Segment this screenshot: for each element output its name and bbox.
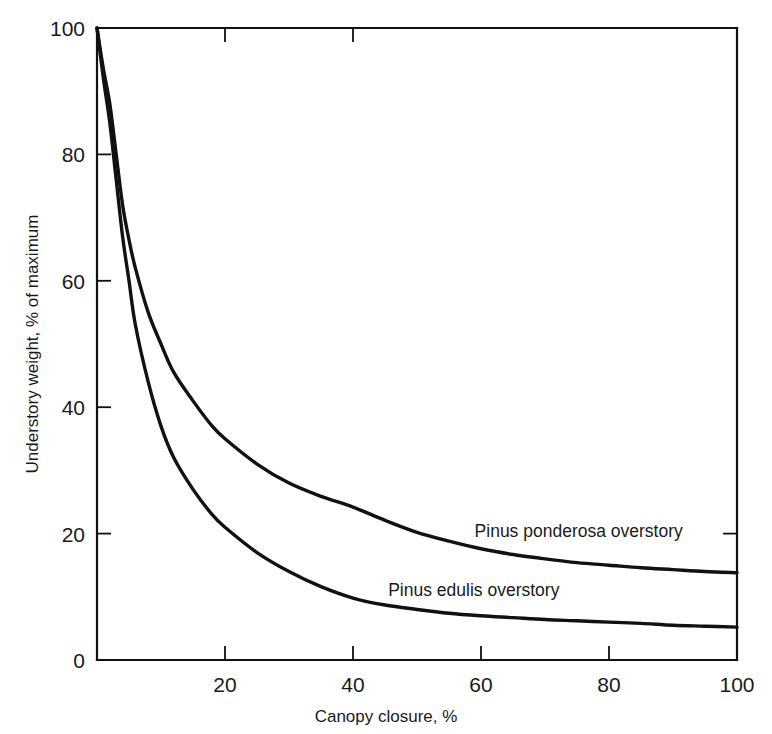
y-tick-label-80: 80 [62,143,85,166]
x-tick-label-80: 80 [597,673,620,696]
x-tick-label-100: 100 [719,673,754,696]
y-tick-label-0: 0 [73,649,85,672]
y-tick-label-100: 100 [50,17,85,40]
x-tick-label-40: 40 [341,673,364,696]
y-tick-label-20: 20 [62,523,85,546]
x-tick-marks [225,646,609,660]
axis-frame [97,28,737,660]
y-axis-title: Understory weight, % of maximum [23,215,42,474]
series-label-pinus-edulis: Pinus edulis overstory [388,580,559,600]
y-tick-labels: 0 20 40 60 80 100 [50,17,85,672]
x-tick-label-20: 20 [213,673,236,696]
x-tick-labels: 20 40 60 80 100 [213,673,754,696]
series-label-pinus-ponderosa: Pinus ponderosa overstory [475,521,683,541]
x-tick-marks-top [225,28,353,42]
line-chart-svg: 0 20 40 60 80 100 20 40 60 80 100 Canopy… [0,0,772,734]
y-tick-label-60: 60 [62,270,85,293]
chart-figure: 0 20 40 60 80 100 20 40 60 80 100 Canopy… [0,0,772,734]
x-axis-title: Canopy closure, % [315,707,458,726]
x-tick-label-60: 60 [469,673,492,696]
y-tick-label-40: 40 [62,396,85,419]
